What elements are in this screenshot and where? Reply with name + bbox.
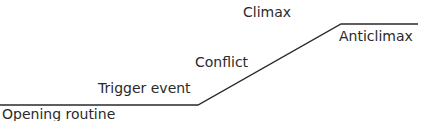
label-opening-routine: Opening routine: [2, 107, 115, 121]
label-climax: Climax: [243, 5, 291, 19]
label-anticlimax: Anticlimax: [339, 29, 413, 43]
label-trigger-event: Trigger event: [98, 81, 191, 95]
label-conflict: Conflict: [195, 55, 248, 69]
